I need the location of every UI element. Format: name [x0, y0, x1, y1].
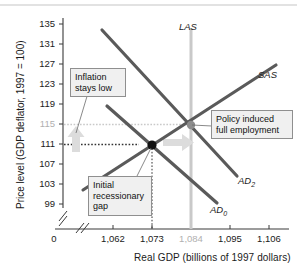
- callout-policy-line-1: Policy induced: [216, 114, 288, 125]
- y-tick-119: 119: [29, 99, 55, 109]
- callout-gap-line-3: gap: [93, 201, 147, 212]
- ad2-label-sub: 2: [251, 181, 255, 188]
- x-axis-break-icon: [76, 223, 89, 233]
- x-tick-1062: 1,062: [95, 234, 131, 244]
- y-tick-111: 111: [29, 139, 55, 149]
- sas-label: SAS: [258, 70, 277, 80]
- ad2-label: AD2: [238, 176, 255, 188]
- as-ad-figure: 135 131 127 123 119 115 111 107 103 99 0…: [0, 0, 297, 273]
- x-tick-origin: 0: [45, 234, 63, 244]
- inflation-leader-line: [76, 93, 88, 133]
- las-label: LAS: [179, 22, 197, 32]
- y-tick-135: 135: [29, 19, 55, 29]
- callout-inflation-line-1: Inflation: [75, 72, 121, 83]
- y-tick-103: 103: [29, 179, 55, 189]
- x-tick-1095: 1,095: [212, 234, 248, 244]
- y-tick-marks: [59, 24, 63, 204]
- x-tick-1073: 1,073: [134, 234, 170, 244]
- ad0-label-sub: 0: [223, 210, 227, 217]
- y-tick-123: 123: [29, 79, 55, 89]
- callout-initial-recessionary-gap: Initial recessionary gap: [88, 176, 152, 216]
- y-axis-break-icon: [59, 211, 67, 226]
- y-tick-99: 99: [29, 199, 55, 209]
- callout-gap-line-2: recessionary: [93, 191, 147, 202]
- inflation-up-arrow: [68, 126, 85, 152]
- callout-inflation-stays-low: Inflation stays low: [70, 68, 126, 97]
- y-tick-107: 107: [29, 159, 55, 169]
- x-tick-1106: 1,106: [251, 234, 287, 244]
- ad0-label-text: AD: [210, 204, 223, 215]
- callout-inflation-line-2: stays low: [75, 83, 121, 94]
- ad0-label: AD0: [210, 205, 227, 217]
- ad2-label-text: AD: [238, 175, 251, 186]
- y-tick-127: 127: [29, 59, 55, 69]
- y-axis-title: Price level (GDP deflator, 1997 = 100): [16, 40, 26, 209]
- x-tick-1084: 1,084: [173, 234, 209, 244]
- initial-equilibrium-dot: [147, 140, 156, 149]
- y-tick-115: 115: [29, 119, 55, 129]
- callout-gap-line-1: Initial: [93, 180, 147, 191]
- callout-policy-induced-full-employment: Policy induced full employment: [211, 110, 293, 139]
- x-axis-title: Real GDP (billions of 1997 dollars): [134, 253, 291, 263]
- y-tick-131: 131: [29, 39, 55, 49]
- callout-policy-line-2: full employment: [216, 125, 288, 136]
